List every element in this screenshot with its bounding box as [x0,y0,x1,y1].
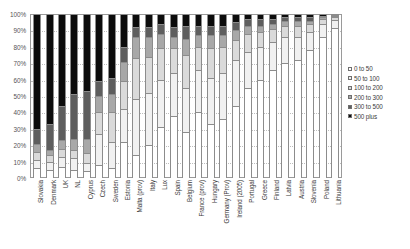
bar-slot [230,14,242,178]
bar-slot [217,14,229,178]
stacked-bar[interactable] [306,14,314,178]
stacked-bar[interactable] [207,14,215,178]
stacked-bar[interactable] [108,14,116,178]
legend-swatch-icon [348,105,352,109]
stacked-bar[interactable] [195,14,203,178]
bar-segment [196,35,202,46]
stacked-bar[interactable] [331,14,339,178]
stacked-bar[interactable] [58,14,66,178]
stacked-bar[interactable] [33,14,41,178]
y-axis-tick-label: 50% [14,93,27,100]
bar-segment [47,170,53,178]
x-axis-slot: Denmark [43,180,55,248]
y-axis-tick-label: 100% [10,11,26,18]
bar-slot [254,14,266,178]
stacked-bar[interactable] [244,14,252,178]
legend-item[interactable]: 300 to 500 [348,102,408,111]
legend-item[interactable]: 100 to 200 [348,83,408,92]
bar-segment [121,109,127,142]
bar-segment [295,26,301,37]
bar-segment [270,70,276,178]
stacked-bar[interactable] [157,14,165,178]
y-axis-tick-label: 90% [14,27,27,34]
bar-segment [96,165,102,178]
bar-segment [183,55,189,88]
bar-segment [96,112,102,133]
bar-segment [47,124,53,150]
stacked-bar[interactable] [132,14,140,178]
stacked-bar[interactable] [120,14,128,178]
stacked-bar[interactable] [95,14,103,178]
bar-segment [233,40,239,60]
stacked-bar[interactable] [145,14,153,178]
stacked-bar[interactable] [257,14,265,178]
bar-segment [208,78,214,124]
legend-item[interactable]: 0 to 50 [348,64,408,73]
bar-segment [71,14,77,94]
bar-segment [320,37,326,178]
bar-segment [121,62,127,82]
y-axis-tick-label: 80% [14,43,27,50]
bar-segment [133,27,139,37]
stacked-bar[interactable] [281,14,289,178]
stacked-bar[interactable] [319,14,327,178]
bar-segment [295,60,301,178]
stacked-bar[interactable] [46,14,54,178]
bar-segment [34,14,40,129]
stacked-bar[interactable] [83,14,91,178]
stacked-bar[interactable] [219,14,227,178]
bar-segment [183,132,189,178]
bar-segment [71,94,77,138]
y-axis-tick-label: 60% [14,76,27,83]
bar-slot [279,14,291,178]
x-axis-slot: Austria [292,180,304,248]
bar-segment [59,167,65,178]
bar-segment [121,14,127,47]
bar-slot [192,14,204,178]
bar-segment [307,24,313,32]
bar-segment [220,119,226,178]
bar-segment [59,149,65,157]
x-axis-slot: Slovenia [304,180,316,248]
legend-item[interactable]: 500 plus [348,112,408,121]
legend-item[interactable]: 50 to 100 [348,74,408,83]
bar-segment [158,80,164,128]
bar-segment [133,99,139,155]
bar-segment [109,168,115,178]
bar-slot [130,14,142,178]
bar-segment [171,73,177,116]
stacked-bar[interactable] [70,14,78,178]
bar-segment [220,47,226,73]
stacked-bar[interactable] [294,14,302,178]
bar-segment [96,14,102,81]
stacked-bar-chart: 100%90%80%70%60%50%40%30%20%10%0% Slovak… [0,0,410,249]
legend-item-label: 500 plus [354,113,377,120]
y-axis-tick-label: 70% [14,60,27,67]
legend-item[interactable]: 200 to 300 [348,93,408,102]
bar-segment [121,47,127,62]
x-axis-slot: Estonia [118,180,130,248]
stacked-bar[interactable] [170,14,178,178]
bar-slot [81,14,93,178]
bar-segment [233,60,239,106]
bar-segment [59,157,65,167]
bar-segment [133,58,139,99]
x-axis-slot: UK [56,180,68,248]
bar-segment [47,162,53,170]
stacked-bar[interactable] [182,14,190,178]
x-axis-slot: Portugal [242,180,254,248]
bar-segment [34,129,40,144]
bar-series-container [30,14,342,178]
bar-segment [233,22,239,30]
bar-segment [109,78,115,94]
x-axis-slot: Czech [93,180,105,248]
legend-swatch-icon [348,76,352,80]
bar-segment [233,106,239,178]
stacked-bar[interactable] [232,14,240,178]
stacked-bar[interactable] [269,14,277,178]
legend-item-label: 100 to 200 [354,84,383,91]
bar-segment [158,14,164,24]
bar-segment [258,47,264,80]
legend-item-label: 50 to 100 [354,75,379,82]
bar-segment [233,14,239,22]
